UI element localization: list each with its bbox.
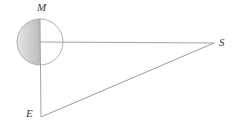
figure-canvas	[0, 0, 236, 135]
segment-M-S	[40, 42, 214, 43]
vertex-label-sun: S	[219, 37, 225, 48]
geometry-figure: M S E	[0, 0, 236, 135]
vertex-label-earth: E	[26, 108, 33, 119]
vertex-label-moon: M	[37, 2, 46, 13]
moon-shaded-half	[17, 19, 40, 65]
segment-E-S	[41, 43, 214, 117]
segment-M-E	[40, 19, 41, 117]
